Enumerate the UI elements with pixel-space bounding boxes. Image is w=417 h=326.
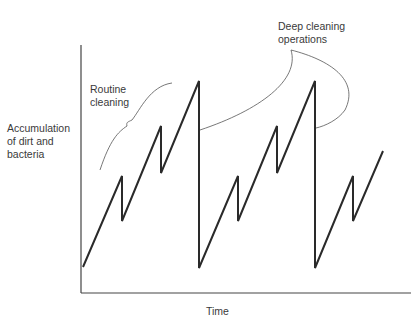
- routine-cleaning-label: Routine cleaning: [90, 83, 129, 109]
- y-label-line-2: of dirt and: [7, 135, 70, 148]
- y-axis-label: Accumulation of dirt and bacteria: [7, 122, 70, 161]
- accumulation-line: [83, 81, 383, 268]
- deep-line-1: Deep cleaning: [278, 20, 345, 33]
- y-label-line-1: Accumulation: [7, 122, 70, 135]
- deep-line-2: operations: [278, 33, 345, 46]
- routine-line-1: Routine: [90, 83, 129, 96]
- diagram-canvas: [0, 0, 417, 326]
- x-axis-label: Time: [206, 305, 229, 318]
- deep-cleaning-label: Deep cleaning operations: [278, 20, 345, 46]
- deep-callout-left: [200, 50, 292, 130]
- y-label-line-3: bacteria: [7, 148, 70, 161]
- routine-line-2: cleaning: [90, 96, 129, 109]
